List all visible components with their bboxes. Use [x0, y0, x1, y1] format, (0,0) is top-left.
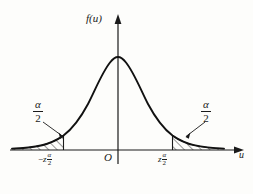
left-area-denominator: 2: [33, 112, 43, 124]
normal-distribution-figure: f(u) O u α 2 α 2 − z α 2 z: [0, 0, 253, 194]
left-tick-subscript: α 2: [47, 152, 53, 167]
left-area-numerator: α: [33, 99, 43, 112]
left-tail-area-label: α 2: [33, 99, 43, 124]
y-axis: [115, 14, 122, 164]
right-area-numerator: α: [201, 99, 211, 112]
right-area-denominator: 2: [201, 112, 211, 124]
right-tick-subscript: α 2: [162, 152, 168, 167]
left-tick-sub-denominator: 2: [47, 160, 53, 167]
left-critical-value-label: − z α 2: [38, 152, 52, 167]
origin-label: O: [104, 152, 112, 163]
left-leader-line: [43, 122, 64, 139]
right-tick-sub-denominator: 2: [162, 160, 168, 167]
right-leader-line: [186, 122, 206, 139]
y-axis-label: f(u): [86, 13, 102, 24]
y-axis-label-text: f(u): [86, 12, 102, 24]
right-critical-value-label: z α 2: [158, 152, 167, 167]
x-axis-label: u: [239, 150, 244, 160]
right-tail-area-label: α 2: [201, 99, 211, 124]
